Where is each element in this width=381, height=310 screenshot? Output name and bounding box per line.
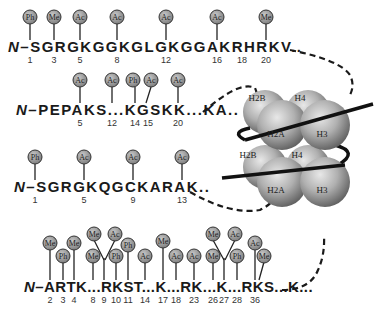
modification-markers: Me Ph Me Me Me Ac Ph Ph Ac Me Ac Ac Me bbox=[43, 227, 271, 263]
svg-text:10: 10 bbox=[111, 295, 121, 305]
tail-row-3: Ph Ac Ac Ac N–SGRGKQGCKARAK.. 1 5 9 13 bbox=[14, 150, 210, 205]
svg-text:5: 5 bbox=[77, 55, 82, 65]
svg-text:16: 16 bbox=[212, 55, 222, 65]
mark-label: Me bbox=[208, 252, 219, 261]
mark-label: Ph bbox=[26, 13, 34, 22]
mark-label: Ac bbox=[79, 153, 89, 162]
svg-text:18: 18 bbox=[237, 55, 247, 65]
svg-text:9: 9 bbox=[130, 195, 135, 205]
mark-label: Ac bbox=[112, 13, 122, 22]
histone-label: H3 bbox=[317, 185, 328, 195]
mark-label: Ph bbox=[129, 76, 137, 85]
svg-text:27: 27 bbox=[219, 295, 229, 305]
histone-label: H4 bbox=[292, 150, 303, 160]
svg-text:12: 12 bbox=[161, 55, 171, 65]
residue-numbers: 1 3 5 8 12 16 18 20 bbox=[27, 55, 271, 65]
mark-label: Ac bbox=[177, 153, 187, 162]
svg-text:5: 5 bbox=[81, 195, 86, 205]
svg-text:17: 17 bbox=[158, 295, 168, 305]
tail-row-4: Me Ph Me Me Me Ac Ph Ph Ac Me Ac Ac Me bbox=[24, 227, 313, 305]
svg-text:23: 23 bbox=[189, 295, 199, 305]
mark-label: Ac bbox=[173, 76, 183, 85]
histone-label: H3 bbox=[317, 129, 328, 139]
histone-label: H2B bbox=[239, 150, 256, 160]
mark-label: Ac bbox=[75, 13, 85, 22]
svg-text:14: 14 bbox=[140, 295, 150, 305]
mark-label: Ac bbox=[128, 153, 138, 162]
tail-row-1: Ph Me Ac Ac Ac Ac Me N–SGRGKGGKGLGKGGAKR… bbox=[8, 10, 302, 65]
mark-label: Ph bbox=[112, 252, 120, 261]
mark-label: Ac bbox=[75, 76, 85, 85]
mark-label: Me bbox=[88, 252, 99, 261]
tail-row-2: Ac Ac Ph Ac Ac N–PEPAKS...KGSKK...KA.. 5… bbox=[16, 73, 239, 128]
svg-text:9: 9 bbox=[101, 295, 106, 305]
mark-label: Me bbox=[259, 252, 270, 261]
histone-label: H2B bbox=[248, 93, 265, 103]
modification-markers: Ph Ac Ac Ac bbox=[28, 150, 189, 164]
mark-label: Ph bbox=[124, 241, 132, 250]
mark-label: Ac bbox=[140, 252, 150, 261]
mark-label: Me bbox=[45, 239, 56, 248]
histone-label: H4 bbox=[295, 93, 306, 103]
mark-label: Ac bbox=[110, 230, 120, 239]
svg-text:1: 1 bbox=[32, 195, 37, 205]
svg-text:11: 11 bbox=[123, 295, 132, 305]
svg-text:14: 14 bbox=[130, 118, 140, 128]
sequence-text: N–ARTK...RKST...K...RK...K...RKS...K... bbox=[24, 278, 313, 295]
svg-text:18: 18 bbox=[171, 295, 181, 305]
histone-sphere bbox=[300, 100, 350, 150]
svg-text:5: 5 bbox=[77, 118, 82, 128]
mark-label: Ph bbox=[31, 153, 39, 162]
mark-label: Ac bbox=[171, 252, 181, 261]
svg-text:12: 12 bbox=[107, 118, 117, 128]
histone-label: H2A bbox=[267, 129, 285, 139]
svg-text:20: 20 bbox=[261, 55, 271, 65]
svg-text:2: 2 bbox=[47, 295, 52, 305]
residue-numbers: 5 12 14 15 20 bbox=[77, 118, 183, 128]
sequence-text: N–SGRGKGGKGLGKGGAKRHRKV.. bbox=[8, 38, 302, 55]
sequence-text: N–SGRGKQGCKARAK.. bbox=[14, 178, 210, 195]
mark-label: Ac bbox=[107, 76, 117, 85]
mark-label: Ac bbox=[212, 13, 222, 22]
svg-text:13: 13 bbox=[177, 195, 187, 205]
mark-label: Ac bbox=[161, 13, 171, 22]
svg-text:26: 26 bbox=[208, 295, 218, 305]
mark-label: Me bbox=[158, 237, 169, 246]
modification-markers: Ac Ac Ph Ac Ac bbox=[73, 73, 185, 87]
mark-label: Ac bbox=[230, 230, 240, 239]
mark-label: Me bbox=[89, 230, 100, 239]
residue-numbers: 1 5 9 13 bbox=[32, 195, 187, 205]
svg-text:36: 36 bbox=[250, 295, 260, 305]
svg-text:1: 1 bbox=[27, 55, 32, 65]
histone-diagram: Ph Me Ac Ac Ac Ac Me N–SGRGKGGKGLGKGGAKR… bbox=[0, 0, 381, 310]
mark-label: Ac bbox=[146, 76, 156, 85]
modification-markers: Ph Me Ac Ac Ac Ac Me bbox=[23, 10, 273, 24]
mark-label: Me bbox=[69, 239, 80, 248]
svg-text:4: 4 bbox=[71, 295, 76, 305]
svg-text:3: 3 bbox=[51, 55, 56, 65]
mark-label: Me bbox=[208, 230, 219, 239]
mark-label: Ac bbox=[250, 239, 260, 248]
svg-text:3: 3 bbox=[60, 295, 65, 305]
residue-numbers: 2 3 4 8 9 10 11 14 17 18 23 26 27 28 36 bbox=[47, 295, 260, 305]
histone-label: H2A bbox=[267, 185, 285, 195]
mark-label: Me bbox=[261, 13, 272, 22]
svg-text:8: 8 bbox=[90, 295, 95, 305]
mark-label: Me bbox=[49, 13, 60, 22]
svg-text:15: 15 bbox=[143, 118, 153, 128]
mark-label: Ac bbox=[189, 252, 199, 261]
histone-sphere bbox=[257, 157, 307, 207]
svg-text:8: 8 bbox=[114, 55, 119, 65]
nucleosome: H2B H4 H2A H3 H2B H4 H2A H3 bbox=[222, 90, 373, 207]
mark-label: Ph bbox=[59, 252, 67, 261]
svg-text:20: 20 bbox=[173, 118, 183, 128]
mark-label: Ph bbox=[233, 252, 241, 261]
svg-text:28: 28 bbox=[232, 295, 242, 305]
